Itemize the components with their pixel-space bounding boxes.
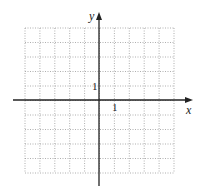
y-axis-label: y: [88, 9, 95, 23]
coordinate-plane: y x 1 1: [0, 0, 207, 193]
x-tick-label-1: 1: [112, 101, 118, 113]
x-axis-label: x: [185, 103, 192, 117]
y-axis: [96, 12, 102, 186]
y-tick-label-1: 1: [92, 80, 98, 92]
x-axis: [13, 97, 193, 103]
y-axis-arrow-icon: [96, 12, 102, 20]
